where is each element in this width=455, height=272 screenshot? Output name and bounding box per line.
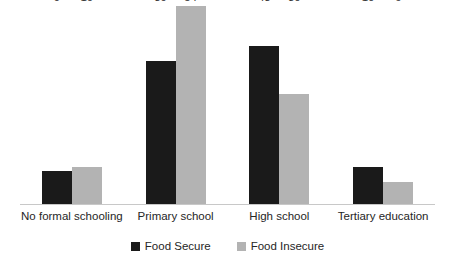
legend-swatch-gray-icon [237,242,246,251]
bar-group-no-formal-schooling: 9 10 [20,6,124,204]
bar-high-school-food-insecure[interactable] [279,94,309,204]
legend-item-food-insecure[interactable]: Food Insecure [237,240,325,253]
bar-primary-school-food-insecure[interactable] [176,6,206,204]
legend-item-food-secure[interactable]: Food Secure [131,240,211,253]
bar-group-primary-school: 39 54 [124,6,228,204]
bar-primary-school-food-secure[interactable] [146,61,176,204]
bar-value-primary-school-food-insecure: 54 [184,0,197,3]
bar-wrap-tertiary-education-food-secure: 10 [353,6,383,204]
bar-no-formal-schooling-food-insecure[interactable] [72,167,102,204]
x-axis-label-high-school: High school [228,208,332,224]
legend-label-food-insecure: Food Insecure [251,240,325,253]
legend-swatch-dark-icon [131,242,140,251]
legend-label-food-secure: Food Secure [145,240,211,253]
bar-group-tertiary-education: 10 6 [331,6,435,204]
bar-wrap-primary-school-food-secure: 39 [146,6,176,204]
bar-wrap-high-school-food-insecure: 30 [279,6,309,204]
bar-no-formal-schooling-food-secure[interactable] [42,171,72,204]
bar-wrap-no-formal-schooling-food-secure: 9 [42,6,72,204]
bar-tertiary-education-food-secure[interactable] [353,167,383,204]
bar-chart: 9 10 39 54 [0,0,455,272]
bar-groups: 9 10 39 54 [20,6,435,204]
bar-value-no-formal-schooling-food-secure: 9 [54,0,60,3]
chart-legend: Food Secure Food Insecure [0,240,455,253]
bar-tertiary-education-food-insecure[interactable] [383,182,413,204]
bar-value-tertiary-education-food-insecure: 6 [395,0,401,3]
bar-value-high-school-food-secure: 43 [258,0,271,3]
x-axis-line [20,204,435,205]
bar-wrap-primary-school-food-insecure: 54 [176,6,206,204]
x-axis-label-no-formal-schooling: No formal schooling [20,208,124,224]
plot-area: 9 10 39 54 [20,6,435,204]
bar-group-high-school: 43 30 [228,6,332,204]
bar-wrap-tertiary-education-food-insecure: 6 [383,6,413,204]
x-axis-label-tertiary-education: Tertiary education [331,208,435,224]
bar-value-tertiary-education-food-secure: 10 [362,0,375,3]
x-axis-label-primary-school: Primary school [124,208,228,224]
bar-high-school-food-secure[interactable] [249,46,279,204]
bar-wrap-high-school-food-secure: 43 [249,6,279,204]
x-axis-category-labels: No formal schooling Primary school High … [20,208,435,224]
bar-value-no-formal-schooling-food-insecure: 10 [80,0,93,3]
bar-value-primary-school-food-secure: 39 [154,0,167,3]
bar-value-high-school-food-insecure: 30 [288,0,301,3]
bar-wrap-no-formal-schooling-food-insecure: 10 [72,6,102,204]
